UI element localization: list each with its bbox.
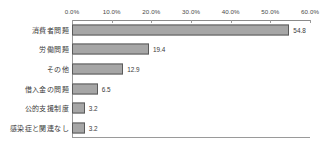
x-axis-tick-label: 30.0%: [182, 8, 200, 15]
x-axis-tick-label: 40.0%: [222, 8, 240, 15]
bar-value-label: 3.2: [89, 125, 98, 132]
bar-value-label: 54.8: [293, 26, 305, 33]
bar-row: 労働問題19.4: [0, 40, 327, 60]
x-axis-tick-mark: [191, 20, 192, 23]
x-axis-tick-mark: [151, 20, 152, 23]
category-label: その他: [47, 64, 69, 74]
x-axis-tick-mark: [310, 20, 311, 23]
category-label: 借入金の問題: [25, 84, 69, 94]
x-axis-tick-mark: [112, 20, 113, 23]
x-axis-tick-labels: 0.0%10.0%20.0%30.0%40.0%50.0%60.0%: [72, 8, 310, 18]
bar: [72, 44, 149, 55]
x-axis-tick-label: 60.0%: [301, 8, 319, 15]
bar-row: 借入金の問題6.5: [0, 79, 327, 99]
bar: [72, 123, 85, 134]
category-label: 労働問題: [39, 44, 69, 54]
bar-row: 公的支援制度3.2: [0, 99, 327, 119]
bar: [72, 83, 98, 94]
x-axis-tick-label: 0.0%: [65, 8, 80, 15]
bar-value-label: 3.2: [89, 105, 98, 112]
x-axis-tick-mark: [231, 20, 232, 23]
x-axis-tick-label: 50.0%: [261, 8, 279, 15]
x-axis-tick-label: 10.0%: [103, 8, 121, 15]
bar-value-label: 6.5: [102, 85, 111, 92]
bar-row: 感染症と関連なし3.2: [0, 118, 327, 138]
bar-chart: 0.0%10.0%20.0%30.0%40.0%50.0%60.0% 消費者問題…: [0, 0, 327, 153]
category-label: 消費者問題: [32, 25, 69, 35]
x-axis-tick-mark: [72, 20, 73, 23]
bar-rows: 消費者問題54.8労働問題19.4その他12.9借入金の問題6.5公的支援制度3…: [0, 20, 327, 138]
x-axis-tick-mark: [270, 20, 271, 23]
bar-row: 消費者問題54.8: [0, 20, 327, 40]
bar: [72, 64, 123, 75]
category-label: 感染症と関連なし: [10, 123, 69, 133]
bar-value-label: 19.4: [153, 46, 165, 53]
bar: [72, 24, 289, 35]
bar-row: その他12.9: [0, 59, 327, 79]
bar: [72, 103, 85, 114]
category-label: 公的支援制度: [25, 103, 69, 113]
x-axis-tick-label: 20.0%: [142, 8, 160, 15]
bar-value-label: 12.9: [127, 66, 139, 73]
